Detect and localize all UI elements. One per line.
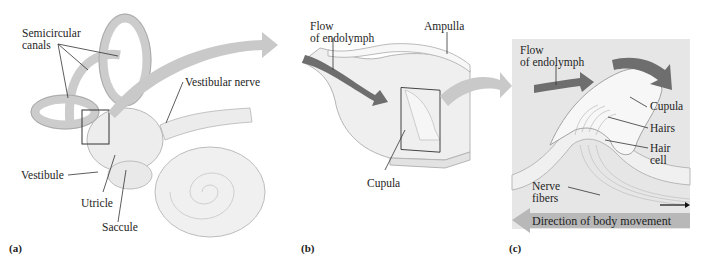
label-flow-of-endolymph-b: Flow of endolymph: [310, 20, 374, 44]
label-text: canals: [22, 39, 51, 51]
saccule-body: [108, 161, 152, 189]
label-utricle: Utricle: [81, 197, 113, 209]
label-text: Nerve: [532, 180, 560, 192]
label-ampulla: Ampulla: [424, 20, 464, 32]
label-text: Flow: [310, 20, 334, 32]
label-semicircular-canals: Semicircular canals: [22, 27, 81, 51]
label-text: of endolymph: [310, 32, 374, 44]
panel-tag-c: (c): [509, 242, 521, 254]
label-hairs: Hairs: [650, 122, 675, 134]
label-cupula-c: Cupula: [650, 100, 683, 112]
label-text: cell: [650, 154, 667, 166]
label-cupula-b: Cupula: [367, 177, 400, 189]
panel-tag-b: (b): [301, 242, 314, 254]
cochlea: [155, 147, 265, 237]
connector-arrow-a-to-b: [108, 32, 278, 118]
label-direction-of-body-movement: Direction of body movement: [532, 214, 671, 229]
label-text: Semicircular: [22, 27, 81, 39]
label-text: Flow: [520, 44, 544, 56]
panel-tag-a: (a): [9, 242, 22, 254]
label-nerve-fibers: Nerve fibers: [532, 180, 560, 204]
label-text: fibers: [532, 192, 558, 204]
label-vestibule: Vestibule: [21, 169, 64, 181]
label-saccule: Saccule: [102, 221, 138, 233]
label-text: of endolymph: [520, 56, 584, 68]
panel-c-cupula-detail: Flow of endolymph Cupula Hairs Hair cell…: [490, 0, 705, 263]
label-text: Hair: [650, 142, 670, 154]
vestibular-nerve-bundle: [160, 108, 252, 140]
label-vestibular-nerve: Vestibular nerve: [185, 76, 260, 88]
panel-a-inner-ear: Semicircular canals Vestibular nerve Ves…: [0, 0, 280, 263]
label-flow-of-endolymph-c: Flow of endolymph: [520, 44, 584, 68]
label-hair-cell: Hair cell: [650, 142, 670, 166]
panel-b-ampulla: Flow of endolymph Ampulla Cupula (b): [280, 0, 500, 263]
